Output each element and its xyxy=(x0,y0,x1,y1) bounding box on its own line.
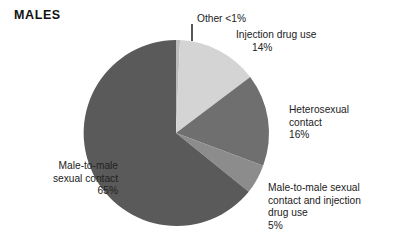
slice-label-injection-percent: 14% xyxy=(236,42,316,55)
slice-label-male-to-male-sexual-contact: Male-to-male sexual contact 65% xyxy=(6,160,118,198)
slice-label-mtm-line2: sexual contact xyxy=(6,173,118,186)
slice-label-mtm-percent: 65% xyxy=(6,185,118,198)
slice-label-injection-line1: Injection drug use xyxy=(236,29,316,42)
slice-label-other: Other <1% xyxy=(197,13,246,26)
slice-label-mtm-idu-percent: 5% xyxy=(268,220,361,233)
pie-chart-figure: MALES Other <1% Injection drug use 14% H… xyxy=(0,0,394,250)
slice-label-mtm-idu-line3: drug use xyxy=(268,207,361,220)
slice-label-mtm-idu-line1: Male-to-male sexual xyxy=(268,182,361,195)
slice-label-heterosexual-line1: Heterosexual xyxy=(289,104,349,117)
slice-label-injection-drug-use: Injection drug use 14% xyxy=(236,29,316,54)
slice-label-mtm-idu-line2: contact and injection xyxy=(268,195,361,208)
slice-label-mtm-line1: Male-to-male xyxy=(6,160,118,173)
slice-label-male-to-male-and-injection: Male-to-male sexual contact and injectio… xyxy=(268,182,361,232)
slice-label-heterosexual-contact: Heterosexual contact 16% xyxy=(289,104,349,142)
slice-label-heterosexual-percent: 16% xyxy=(289,129,349,142)
slice-label-heterosexual-line2: contact xyxy=(289,117,349,130)
slice-label-other-text: Other <1% xyxy=(197,13,246,26)
